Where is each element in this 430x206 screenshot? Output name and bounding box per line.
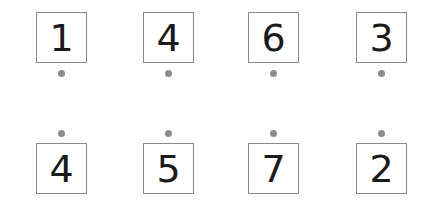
card-digit: 3: [369, 19, 393, 57]
top-dot-4[interactable]: [378, 70, 385, 77]
bottom-card-4: 2: [356, 143, 407, 194]
top-card-2: 4: [143, 12, 194, 63]
bottom-card-1: 4: [36, 143, 87, 194]
top-dot-2[interactable]: [165, 70, 172, 77]
card-digit: 4: [156, 19, 180, 57]
card-digit: 5: [156, 150, 180, 188]
top-card-3: 6: [248, 12, 299, 63]
top-dot-3[interactable]: [270, 70, 277, 77]
bottom-dot-1[interactable]: [58, 130, 65, 137]
card-digit: 1: [49, 19, 73, 57]
top-card-4: 3: [356, 12, 407, 63]
bottom-card-3: 7: [248, 143, 299, 194]
top-dot-1[interactable]: [58, 70, 65, 77]
card-digit: 6: [261, 19, 285, 57]
card-digit: 4: [49, 150, 73, 188]
card-digit: 7: [261, 150, 285, 188]
bottom-dot-2[interactable]: [165, 130, 172, 137]
card-digit: 2: [369, 150, 393, 188]
bottom-card-2: 5: [143, 143, 194, 194]
top-card-1: 1: [36, 12, 87, 63]
bottom-dot-3[interactable]: [270, 130, 277, 137]
bottom-dot-4[interactable]: [378, 130, 385, 137]
